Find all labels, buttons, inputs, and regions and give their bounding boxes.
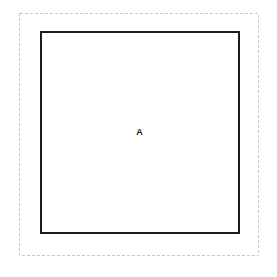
region-a-label: A	[41, 32, 238, 232]
diagram-canvas: A	[0, 0, 277, 277]
